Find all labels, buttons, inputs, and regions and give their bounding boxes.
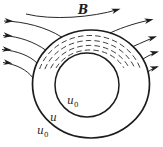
inner-ring-circle xyxy=(55,53,119,117)
magnetic-field-label: B xyxy=(77,3,88,17)
permeability-inner-label: u xyxy=(67,94,74,106)
field-line-left-1 xyxy=(4,21,62,37)
field-line-right-4-arrowhead xyxy=(150,64,160,72)
permeability-outer-label: u xyxy=(37,124,44,136)
field-line-right-1 xyxy=(110,20,151,33)
field-line-right-1-arrowhead xyxy=(144,17,154,24)
field-line-left-2 xyxy=(3,36,46,51)
field-line-top xyxy=(26,10,118,18)
field-line-top-arrowhead xyxy=(111,6,121,14)
permeability-ring-label: u xyxy=(50,111,57,123)
field-diagram-canvas: B u 0 u u 0 xyxy=(0,0,163,147)
field-line-right-2-arrowhead xyxy=(148,34,158,42)
magnetic-shielding-figure: B u 0 u u 0 xyxy=(0,0,163,147)
permeability-outer-subscript: 0 xyxy=(44,131,48,139)
permeability-inner-subscript: 0 xyxy=(74,101,78,109)
field-line-right-3-arrowhead xyxy=(150,49,160,57)
field-line-left-4 xyxy=(3,63,33,79)
